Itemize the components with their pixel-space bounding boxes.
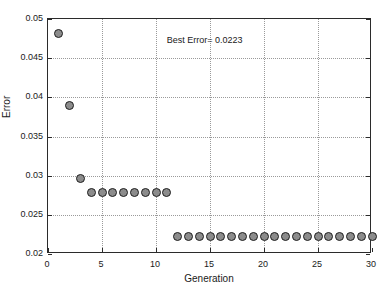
data-point bbox=[119, 188, 128, 197]
y-tick-label: 0.025 bbox=[8, 209, 43, 219]
data-point bbox=[184, 232, 193, 241]
y-axis-title: Error bbox=[1, 96, 12, 118]
gridline-vertical bbox=[264, 19, 265, 252]
tick-mark-x bbox=[318, 248, 319, 252]
y-tick-label: 0.045 bbox=[8, 52, 43, 62]
data-point bbox=[281, 232, 290, 241]
tick-mark-x bbox=[372, 248, 373, 252]
data-point bbox=[292, 232, 301, 241]
data-point bbox=[303, 232, 312, 241]
data-point bbox=[335, 232, 344, 241]
tick-mark-y bbox=[48, 19, 52, 20]
y-tick-label: 0.05 bbox=[8, 13, 43, 23]
tick-mark-y-right bbox=[366, 254, 370, 255]
tick-mark-y-right bbox=[366, 215, 370, 216]
data-point bbox=[346, 232, 355, 241]
data-point bbox=[65, 101, 74, 110]
tick-mark-y-right bbox=[366, 176, 370, 177]
tick-mark-x bbox=[102, 248, 103, 252]
data-point bbox=[87, 188, 96, 197]
best-error-annotation: Best Error= 0.0223 bbox=[167, 35, 243, 45]
tick-mark-y-right bbox=[366, 19, 370, 20]
data-point bbox=[324, 232, 333, 241]
data-point bbox=[249, 232, 258, 241]
gridline-vertical bbox=[156, 19, 157, 252]
data-point bbox=[206, 232, 215, 241]
data-point bbox=[195, 232, 204, 241]
data-point bbox=[162, 188, 171, 197]
gridline-horizontal bbox=[48, 97, 370, 98]
data-point bbox=[260, 232, 269, 241]
tick-mark-x bbox=[48, 248, 49, 252]
data-point bbox=[141, 188, 150, 197]
plot-area: Best Error= 0.0223 bbox=[47, 18, 371, 253]
tick-mark-y bbox=[48, 254, 52, 255]
data-point bbox=[98, 188, 107, 197]
data-point bbox=[173, 232, 182, 241]
tick-mark-y bbox=[48, 176, 52, 177]
gridline-vertical bbox=[318, 19, 319, 252]
x-tick-label: 30 bbox=[366, 259, 376, 269]
tick-mark-y-right bbox=[366, 137, 370, 138]
x-tick-label: 10 bbox=[150, 259, 160, 269]
tick-mark-y bbox=[48, 97, 52, 98]
data-point bbox=[368, 232, 377, 241]
tick-mark-y bbox=[48, 215, 52, 216]
data-point bbox=[108, 188, 117, 197]
data-point bbox=[76, 174, 85, 183]
x-axis-title: Generation bbox=[47, 273, 371, 284]
figure-canvas: Best Error= 0.0223 051015202530 0.020.02… bbox=[0, 0, 385, 294]
data-point bbox=[152, 188, 161, 197]
data-point bbox=[216, 232, 225, 241]
tick-mark-x bbox=[210, 248, 211, 252]
data-point bbox=[227, 232, 236, 241]
tick-mark-y-right bbox=[366, 97, 370, 98]
gridline-vertical bbox=[102, 19, 103, 252]
data-point bbox=[314, 232, 323, 241]
x-tick-label: 0 bbox=[44, 259, 49, 269]
y-tick-label: 0.02 bbox=[8, 248, 43, 258]
y-tick-label: 0.035 bbox=[8, 131, 43, 141]
data-point bbox=[130, 188, 139, 197]
tick-mark-x bbox=[264, 248, 265, 252]
data-point bbox=[54, 29, 63, 38]
gridline-horizontal bbox=[48, 215, 370, 216]
x-tick-label: 15 bbox=[204, 259, 214, 269]
data-point bbox=[357, 232, 366, 241]
gridline-horizontal bbox=[48, 58, 370, 59]
tick-mark-y bbox=[48, 137, 52, 138]
x-tick-label: 25 bbox=[312, 259, 322, 269]
x-tick-label: 20 bbox=[258, 259, 268, 269]
data-point bbox=[270, 232, 279, 241]
tick-mark-y bbox=[48, 58, 52, 59]
gridline-horizontal bbox=[48, 176, 370, 177]
x-tick-label: 5 bbox=[98, 259, 103, 269]
y-tick-label: 0.04 bbox=[8, 91, 43, 101]
data-point bbox=[238, 232, 247, 241]
tick-mark-y-right bbox=[366, 58, 370, 59]
tick-mark-x bbox=[156, 248, 157, 252]
y-tick-label: 0.03 bbox=[8, 170, 43, 180]
gridline-horizontal bbox=[48, 137, 370, 138]
gridline-vertical bbox=[210, 19, 211, 252]
